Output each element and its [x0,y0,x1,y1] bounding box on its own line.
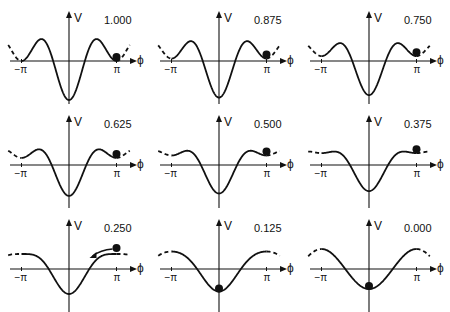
tick-minus-pi: −π [165,272,178,283]
parameter-value: 0.625 [104,118,132,130]
tick-pi: π [264,272,271,283]
potential-panel: V 0.875 −π π ϕ [150,0,300,104]
phi-axis-arrow-icon [130,266,137,272]
v-axis-label: V [374,115,382,129]
potential-curve-extension [8,254,21,255]
potential-curve-extension [308,152,321,154]
potential-panel: V 0.000 −π π ϕ [300,208,450,312]
potential-grid: V 1.000 −π π ϕ V 0.875 −π π ϕ V 0.750 −π… [0,0,450,312]
tick-minus-pi: −π [15,168,28,179]
tick-minus-pi: −π [315,64,328,75]
phi-axis-label: ϕ [137,261,144,275]
v-axis-label: V [224,219,232,233]
potential-curve-extension [308,249,321,256]
phi-axis-arrow-icon [430,58,437,64]
ball-icon [113,244,121,252]
tick-pi: π [264,168,271,179]
phi-axis-label: ϕ [287,53,294,67]
parameter-value: 0.375 [404,118,432,130]
potential-panel: V 1.000 −π π ϕ [0,0,150,104]
parameter-value: 0.125 [254,222,282,234]
v-axis-label: V [224,11,232,25]
tick-pi: π [414,64,421,75]
tick-minus-pi: −π [15,64,28,75]
tick-minus-pi: −π [165,64,178,75]
potential-curve-extension [158,151,171,155]
potential-panel: V 0.375 −π π ϕ [300,104,450,208]
parameter-value: 0.750 [404,14,432,26]
tick-pi: π [114,168,121,179]
ball-icon [263,51,271,59]
ball-icon [263,148,271,156]
v-axis-label: V [74,115,82,129]
parameter-value: 0.875 [254,14,282,26]
potential-curve-extension [8,45,21,61]
parameter-value: 0.000 [404,222,432,234]
potential-curve-extension [158,45,171,58]
phi-axis-arrow-icon [430,162,437,168]
tick-minus-pi: −π [165,168,178,179]
potential-curve-extension [158,252,171,256]
v-axis-label: V [374,219,382,233]
v-axis-label: V [374,11,382,25]
ball-icon [113,150,121,158]
parameter-value: 0.500 [254,118,282,130]
v-axis-arrow-icon [66,219,72,226]
phi-axis-label: ϕ [287,157,294,171]
phi-axis-label: ϕ [437,157,444,171]
ball-icon [215,285,223,293]
v-axis-arrow-icon [366,219,372,226]
phi-axis-arrow-icon [130,58,137,64]
potential-panel: V 0.500 −π π ϕ [150,104,300,208]
v-axis-arrow-icon [366,115,372,122]
potential-curve-extension [267,252,280,256]
tick-pi: π [114,64,121,75]
phi-axis-label: ϕ [137,157,144,171]
v-axis-label: V [224,115,232,129]
tick-pi: π [114,272,121,283]
tick-minus-pi: −π [315,168,328,179]
phi-axis-arrow-icon [280,266,287,272]
potential-panel: V 0.125 −π π ϕ [150,208,300,312]
tick-minus-pi: −π [15,272,28,283]
v-axis-arrow-icon [216,11,222,18]
v-axis-arrow-icon [216,219,222,226]
phi-axis-label: ϕ [137,53,144,67]
phi-axis-arrow-icon [430,266,437,272]
phi-axis-label: ϕ [287,261,294,275]
phi-axis-label: ϕ [437,261,444,275]
v-axis-label: V [74,219,82,233]
v-axis-arrow-icon [66,115,72,122]
potential-curve-extension [308,46,321,56]
potential-curve-extension [8,151,21,158]
potential-panel: V 0.750 −π π ϕ [300,0,450,104]
potential-panel: V 0.250 −π π ϕ [0,208,150,312]
ball-icon [365,282,373,290]
ball-icon [413,145,421,153]
v-axis-label: V [74,11,82,25]
phi-axis-arrow-icon [280,162,287,168]
parameter-value: 1.000 [104,14,132,26]
tick-pi: π [414,168,421,179]
potential-curve-extension [117,254,130,255]
potential-panel: V 0.625 −π π ϕ [0,104,150,208]
v-axis-arrow-icon [366,11,372,18]
tick-pi: π [264,64,271,75]
ball-icon [413,48,421,56]
phi-axis-arrow-icon [280,58,287,64]
tick-minus-pi: −π [315,272,328,283]
phi-axis-arrow-icon [130,162,137,168]
v-axis-arrow-icon [66,11,72,18]
parameter-value: 0.250 [104,222,132,234]
phi-axis-label: ϕ [437,53,444,67]
ball-icon [113,53,121,61]
tick-pi: π [414,272,421,283]
v-axis-arrow-icon [216,115,222,122]
potential-curve-extension [417,249,430,256]
